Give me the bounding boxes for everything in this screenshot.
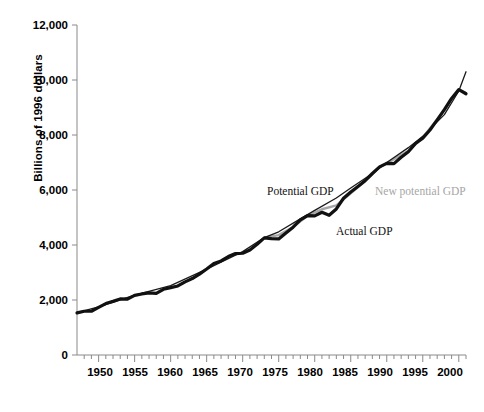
- plot-area: [0, 0, 484, 412]
- gdp-chart: Billions of 1996 dollars 12,000 10,000 8…: [0, 0, 484, 412]
- series-line-potential-gdp: [77, 72, 466, 313]
- series-line-new-potential-gdp: [264, 90, 466, 238]
- series-lines: [77, 72, 466, 313]
- series-line-actual-gdp: [77, 90, 466, 313]
- axes: [72, 25, 466, 362]
